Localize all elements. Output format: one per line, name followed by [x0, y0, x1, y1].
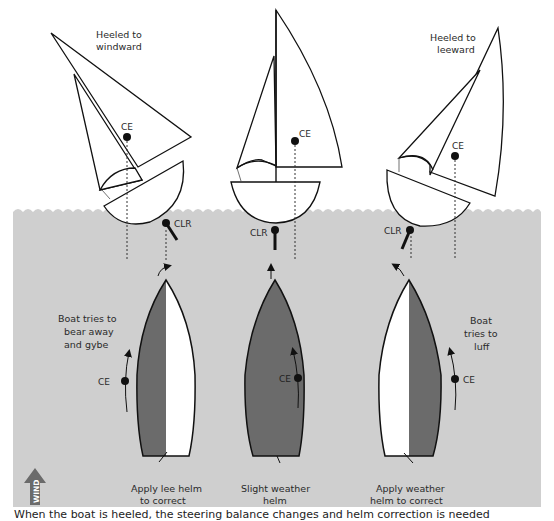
effect-line-1: Boat tries to: [58, 313, 117, 324]
correction-line-2: helm: [263, 495, 287, 506]
clr-label: CLR: [250, 228, 268, 238]
effect-line-3: and gybe: [64, 339, 109, 350]
clr-label: CLR: [384, 226, 402, 236]
ce-label: CE: [452, 141, 464, 151]
ce-point-plan: [451, 375, 459, 383]
correction-line-2: to correct: [140, 495, 186, 506]
ce-label: CE: [121, 122, 133, 132]
ce-point: [451, 152, 459, 160]
clr-label: CLR: [174, 219, 192, 229]
heading-line-1: Heeled to: [96, 29, 142, 40]
clr-point: [162, 219, 170, 227]
figure-caption: When the boat is heeled, the steering ba…: [14, 509, 490, 521]
ce-label-plan: CE: [463, 375, 475, 385]
correction-line-1: Apply weather: [376, 483, 445, 494]
correction-line-2: helm to correct: [370, 495, 443, 506]
ce-point-plan: [121, 377, 129, 385]
ce-label-plan: CE: [98, 377, 110, 387]
effect-line-1: Boat: [470, 315, 492, 326]
clr-point: [271, 226, 279, 234]
clr-point: [406, 226, 414, 234]
heading-line-1: Heeled to: [430, 32, 476, 43]
sail-upright: [237, 10, 342, 168]
effect-line-3: luff: [474, 341, 490, 352]
wind-label: WIND: [32, 479, 41, 503]
ce-point: [123, 133, 131, 141]
ce-label-plan: CE: [279, 374, 291, 384]
ce-point: [291, 137, 299, 145]
ce-label: CE: [299, 129, 311, 139]
heading-line-2: windward: [96, 41, 142, 52]
sail-windward: [51, 33, 191, 190]
effect-line-2: bear away: [64, 326, 114, 337]
correction-line-1: Apply lee helm: [131, 483, 202, 494]
ce-point-plan: [294, 374, 302, 382]
effect-line-2: tries to: [464, 328, 498, 339]
correction-line-1: Slight weather: [241, 483, 310, 494]
heading-line-2: leeward: [437, 44, 475, 55]
